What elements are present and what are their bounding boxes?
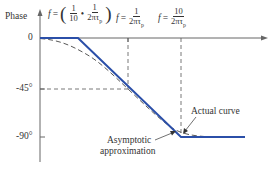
actual-curve — [40, 39, 232, 138]
x-axis-arrow-icon — [261, 36, 268, 41]
y-tick-label-minus45: -45° — [16, 84, 32, 94]
actual-curve-pointer — [185, 117, 196, 131]
actual-curve-label: Actual curve — [191, 107, 240, 117]
freq-label-corner: f = 12πτp — [116, 7, 145, 29]
y-tick-label-minus90: -90° — [16, 132, 32, 142]
freq-label-ten-times: f = 102πτp — [158, 7, 187, 29]
arrowhead-icon — [183, 128, 188, 134]
asymptote-pointer — [155, 133, 172, 140]
y-axis-arrow-icon — [38, 9, 43, 16]
asymptotic-approximation-label-line1: Asymptotic — [107, 136, 151, 146]
asymptotic-approximation-line — [40, 38, 245, 137]
freq-label-tenth: f = ( 110 • 12πτp ) — [48, 3, 111, 25]
asymptotic-approximation-label-line2: approximation — [100, 147, 155, 157]
y-tick-label-0: 0 — [28, 33, 33, 43]
y-axis-label: Phase — [5, 12, 27, 22]
